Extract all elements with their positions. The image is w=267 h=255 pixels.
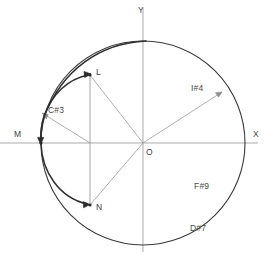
annotation-label-c3: C#3 xyxy=(48,106,64,115)
inner-arc-M-to-N xyxy=(41,144,87,204)
ray-i4-arrowhead xyxy=(216,92,223,97)
annotation-label-d7: D#7 xyxy=(190,224,206,233)
point-marker-L xyxy=(88,73,91,76)
annotation-label-f9: F#9 xyxy=(194,182,209,191)
geometry-figure-canvas: Y X O L M N C#3 I#4 F#9 D#7 xyxy=(0,0,267,255)
annotation-label-i4: I#4 xyxy=(191,84,203,93)
point-label-M: M xyxy=(14,130,21,139)
point-marker-N xyxy=(88,203,91,206)
x-axis-label: X xyxy=(253,130,259,139)
y-axis-label: Y xyxy=(138,6,144,15)
point-label-L: L xyxy=(96,68,101,77)
geometry-vector-layer xyxy=(0,0,267,255)
ray-origin-to-i4-point xyxy=(143,92,222,143)
point-marker-M xyxy=(39,141,42,144)
point-label-N: N xyxy=(96,203,102,212)
ray-origin-to-L xyxy=(90,75,143,143)
ray-origin-to-N xyxy=(90,143,143,205)
leader-line-c3 xyxy=(42,113,90,143)
origin-label: O xyxy=(146,148,153,157)
